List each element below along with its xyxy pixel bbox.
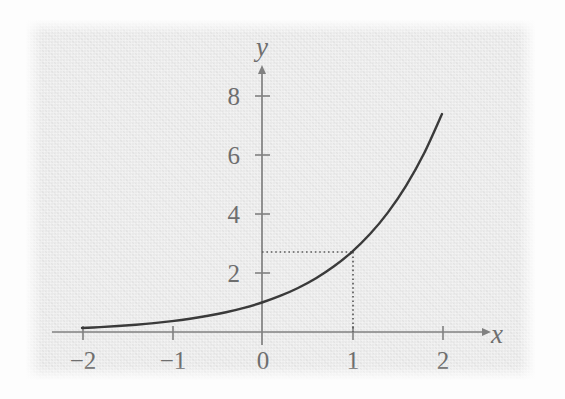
x-tick-label-2: 2 bbox=[437, 347, 450, 374]
x-axis-label: x bbox=[490, 319, 503, 349]
y-axis-label: y bbox=[253, 32, 268, 62]
figure-root: −2 −1 0 1 2 2 4 6 8 x y bbox=[0, 0, 565, 399]
x-axis-tick-labels: −2 −1 0 1 2 bbox=[70, 347, 450, 374]
x-tick-label-0: 0 bbox=[257, 347, 270, 374]
annotation-guides bbox=[262, 252, 353, 332]
y-tick-label-2: 2 bbox=[228, 260, 241, 287]
x-tick-label-minus1: −1 bbox=[160, 347, 187, 374]
y-tick-label-6: 6 bbox=[228, 142, 241, 169]
x-tick-label-minus2: −2 bbox=[70, 347, 97, 374]
x-tick-label-1: 1 bbox=[347, 347, 360, 374]
exponential-function-plot: −2 −1 0 1 2 2 4 6 8 x y bbox=[0, 0, 565, 399]
y-tick-label-4: 4 bbox=[228, 201, 241, 228]
axes-group bbox=[52, 73, 483, 345]
y-axis-tick-labels: 2 4 6 8 bbox=[228, 83, 241, 287]
y-tick-label-8: 8 bbox=[228, 83, 241, 110]
x-axis-ticks bbox=[83, 326, 443, 340]
